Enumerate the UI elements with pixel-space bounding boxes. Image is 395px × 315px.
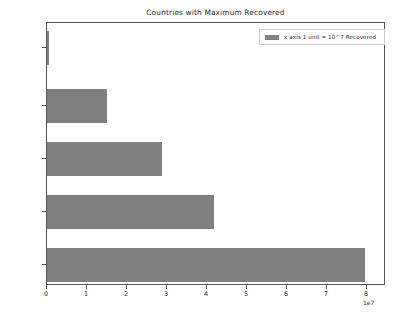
xtick-label-2: 2 <box>116 290 136 298</box>
xtick-mark-8 <box>366 285 367 289</box>
chart-legend: x axis 1 unit = 10^7 Recovered <box>259 29 385 45</box>
bar-india[interactable] <box>47 195 214 229</box>
chart-title: Countries with Maximum Recovered <box>46 8 385 17</box>
bars-layer <box>47 23 384 284</box>
plot-area <box>46 22 385 285</box>
figure-canvas: Countries with Maximum Recovered SINGAPO… <box>0 0 395 315</box>
xtick-mark-2 <box>126 285 127 289</box>
xtick-label-4: 4 <box>196 290 216 298</box>
bar-us[interactable] <box>47 248 365 282</box>
xtick-label-0: 0 <box>36 290 56 298</box>
bar-brazil[interactable] <box>47 142 162 176</box>
ytick-mark-brazil <box>42 158 46 159</box>
ytick-mark-india <box>42 211 46 212</box>
ytick-mark-turkey <box>42 105 46 106</box>
xtick-mark-0 <box>46 285 47 289</box>
xtick-label-1: 1 <box>76 290 96 298</box>
legend-swatch-recovered <box>265 35 279 40</box>
bar-singapore[interactable] <box>47 31 49 65</box>
xtick-label-5: 5 <box>236 290 256 298</box>
xtick-label-3: 3 <box>156 290 176 298</box>
xtick-label-7: 7 <box>316 290 336 298</box>
xtick-label-6: 6 <box>276 290 296 298</box>
legend-label-recovered: x axis 1 unit = 10^7 Recovered <box>284 34 376 40</box>
xtick-mark-5 <box>246 285 247 289</box>
bar-turkey[interactable] <box>47 89 107 123</box>
xtick-mark-3 <box>166 285 167 289</box>
xtick-mark-6 <box>286 285 287 289</box>
ytick-mark-singapore <box>42 47 46 48</box>
xtick-label-8: 8 <box>356 290 376 298</box>
xtick-mark-7 <box>326 285 327 289</box>
xtick-mark-1 <box>86 285 87 289</box>
x-axis-exponent-label: 1e7 <box>363 299 374 306</box>
ytick-mark-us <box>42 264 46 265</box>
xtick-mark-4 <box>206 285 207 289</box>
